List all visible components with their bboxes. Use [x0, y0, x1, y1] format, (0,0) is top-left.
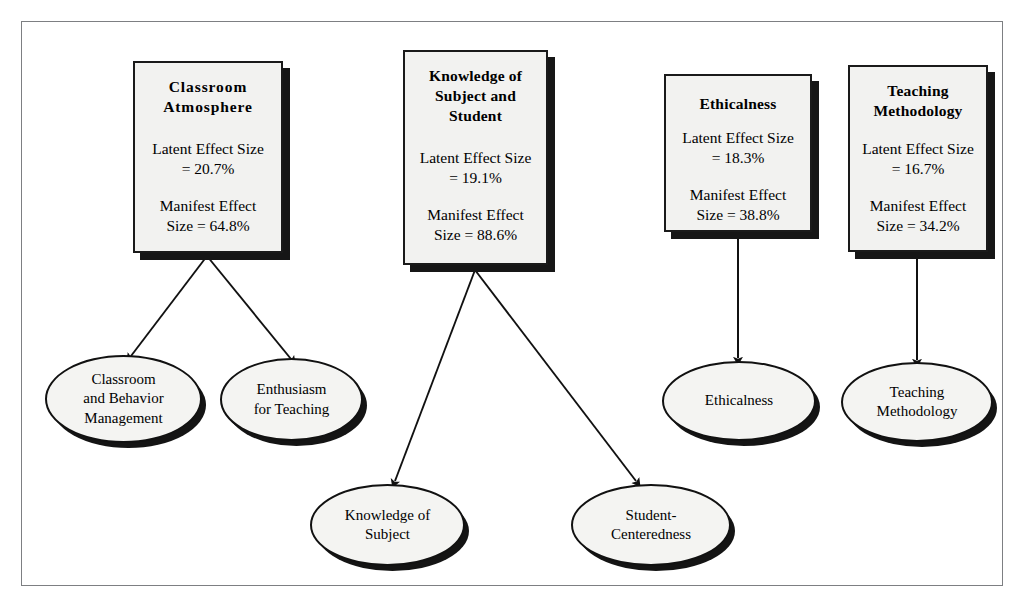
latent-box-title: Classroom Atmosphere [141, 77, 275, 117]
indicator-ellipse-knowledge-of-subject[interactable]: Knowledge of Subject [310, 484, 465, 566]
indicator-ellipse-ethicalness[interactable]: Ethicalness [662, 361, 816, 441]
latent-box-knowledge-of-subject-and-student[interactable]: Knowledge of Subject and Student Latent … [403, 50, 548, 265]
latent-effect-size: Latent Effect Size = 16.7% [856, 139, 980, 179]
latent-box-teaching-methodology[interactable]: Teaching Methodology Latent Effect Size … [848, 65, 988, 252]
manifest-effect-size: Manifest Effect Size = 34.2% [856, 196, 980, 236]
indicator-label: Enthusiasm for Teaching [246, 380, 338, 419]
indicator-ellipse-classroom-and-behavior-management[interactable]: Classroom and Behavior Management [45, 355, 202, 443]
latent-effect-size: Latent Effect Size = 18.3% [672, 128, 804, 168]
manifest-effect-size: Manifest Effect Size = 64.8% [141, 196, 275, 236]
indicator-label: Knowledge of Subject [337, 506, 438, 545]
latent-effect-size: Latent Effect Size = 19.1% [411, 148, 540, 188]
latent-effect-size: Latent Effect Size = 20.7% [141, 139, 275, 179]
manifest-effect-size: Manifest Effect Size = 88.6% [411, 205, 540, 245]
manifest-effect-size: Manifest Effect Size = 38.8% [672, 185, 804, 225]
indicator-ellipse-teaching-methodology[interactable]: Teaching Methodology [841, 362, 993, 442]
indicator-ellipse-enthusiasm-for-teaching[interactable]: Enthusiasm for Teaching [220, 358, 363, 441]
latent-box-title: Knowledge of Subject and Student [411, 66, 540, 126]
latent-box-title: Teaching Methodology [856, 81, 980, 121]
latent-box-ethicalness[interactable]: Ethicalness Latent Effect Size = 18.3% M… [664, 74, 812, 232]
latent-box-classroom-atmosphere[interactable]: Classroom Atmosphere Latent Effect Size … [133, 61, 283, 253]
indicator-label: Student- Centeredness [603, 506, 699, 545]
indicator-label: Teaching Methodology [869, 383, 966, 422]
latent-box-title: Ethicalness [672, 94, 804, 114]
indicator-label: Ethicalness [697, 391, 781, 411]
diagram-page: Classroom Atmosphere Latent Effect Size … [0, 0, 1025, 609]
indicator-ellipse-student-centeredness[interactable]: Student- Centeredness [571, 484, 731, 566]
indicator-label: Classroom and Behavior Management [75, 370, 171, 429]
